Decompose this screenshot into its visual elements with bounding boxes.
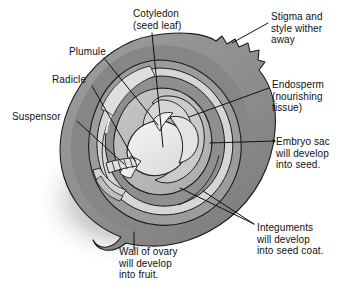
label-cotyledon: Cotyledon (seed leaf): [133, 8, 181, 31]
label-plumule: Plumule: [69, 46, 106, 58]
label-wall-of-ovary: Wall of ovary will develop into fruit.: [119, 246, 178, 281]
label-endosperm: Endosperm (nourishing tissue): [272, 79, 324, 114]
label-integuments: Integuments will develop into seed coat.: [257, 222, 324, 257]
label-radicle: Radicle: [52, 74, 86, 86]
label-suspensor: Suspensor: [12, 111, 61, 123]
label-stigma-and-style: Stigma and style wither away: [271, 11, 323, 46]
label-embryo-sac: Embryo sac will develop into seed.: [276, 136, 330, 171]
seed-development-diagram: Cotyledon (seed leaf) Stigma and style w…: [0, 0, 358, 295]
leader-embryo-sac-terminus: [273, 140, 276, 143]
leader-stigma: [232, 23, 268, 43]
